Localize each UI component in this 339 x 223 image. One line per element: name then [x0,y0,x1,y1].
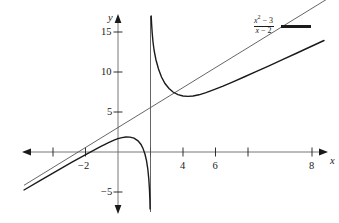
x-axis-label-6: 6 [213,161,218,172]
rational-function-graph-figure: 15 10 5 −5 −2 4 6 8 y x x2 − 3 x − 2 [0,0,339,223]
legend-line-swatch [281,25,311,28]
y-axis-label-5: 5 [107,107,112,118]
x-axis-title: x [330,156,335,167]
axis-arrowheads [22,14,328,214]
y-axis-down-arrow-icon [115,205,122,214]
y-axis-title: y [108,13,113,24]
y-axis-label-10: 10 [101,67,112,78]
x-axis-right-arrow-icon [319,149,328,156]
x-axis-label--2: −2 [78,161,89,172]
legend-formula-numerator: x2 − 3 [252,17,275,26]
axis-lines [24,16,326,212]
legend: x2 − 3 x − 2 [252,17,311,36]
curve-left-branch [24,137,150,209]
y-axis-label--5: −5 [101,187,112,198]
y-axis-label-15: 15 [101,27,112,38]
x-axis-label-8: 8 [309,161,314,172]
y-axis-up-arrow-icon [115,14,122,23]
legend-formula-denominator: x − 2 [254,26,274,36]
legend-formula: x2 − 3 x − 2 [252,17,275,36]
x-axis-left-arrow-icon [22,149,31,156]
x-axis-label-4: 4 [180,161,185,172]
numerator-remainder: − 3 [261,16,274,25]
denominator-remainder: − 2 [259,26,272,35]
